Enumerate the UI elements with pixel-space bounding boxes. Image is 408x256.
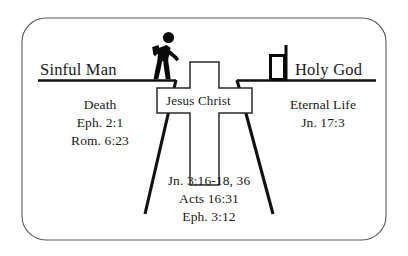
left-reference-line-2: Eph. 2:1	[48, 114, 152, 132]
right-heading: Holy God	[295, 62, 362, 79]
center-reference-line-2: Acts 16:31	[146, 190, 272, 208]
diagram-canvas: Sinful Man Death Eph. 2:1 Rom. 6:23 Holy…	[0, 0, 408, 256]
cross-label: Jesus Christ	[166, 94, 231, 107]
right-reference-block: Eternal Life Jn. 17:3	[268, 96, 378, 132]
center-reference-line-3: Eph. 3:12	[146, 208, 272, 226]
center-reference-block: Jn. 3:16-18, 36 Acts 16:31 Eph. 3:12	[146, 172, 272, 225]
right-reference-line-2: Jn. 17:3	[268, 114, 378, 132]
left-reference-line-3: Rom. 6:23	[48, 132, 152, 150]
right-reference-line-1: Eternal Life	[268, 96, 378, 114]
center-reference-line-1: Jn. 3:16-18, 36	[146, 172, 272, 190]
left-heading: Sinful Man	[40, 62, 117, 79]
left-reference-block: Death Eph. 2:1 Rom. 6:23	[48, 96, 152, 149]
left-reference-line-1: Death	[48, 96, 152, 114]
